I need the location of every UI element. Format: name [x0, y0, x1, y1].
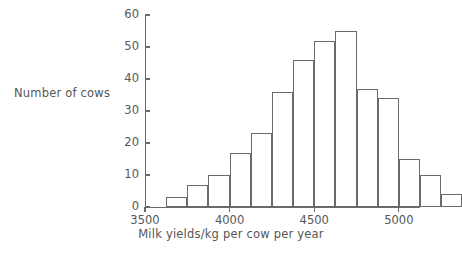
histogram-bar: [208, 175, 229, 207]
x-tick-label-5000: 5000: [369, 213, 429, 227]
x-tick-label-4500: 4500: [284, 213, 344, 227]
x-tick-label-4000: 4000: [200, 213, 260, 227]
y-tick-20: [145, 142, 150, 143]
x-axis-label-wrap: Milk yields/kg per cow per year: [0, 227, 426, 241]
x-axis-line: [145, 207, 420, 208]
histogram-bar: [314, 41, 335, 207]
histogram-bar: [230, 153, 251, 207]
histogram-bar: [166, 197, 187, 207]
histogram-bar: [357, 89, 378, 207]
x-tick-4000: [229, 207, 230, 212]
y-tick-label-30: 30: [99, 103, 139, 117]
histogram-bar: [293, 60, 314, 207]
histogram-bar: [187, 185, 208, 207]
y-tick-label-60: 60: [99, 7, 139, 21]
x-axis-label: Milk yields/kg per cow per year: [102, 227, 323, 241]
histogram-bar: [378, 98, 399, 207]
histogram-bar: [272, 92, 293, 207]
y-tick-label-50: 50: [99, 39, 139, 53]
y-tick-10: [145, 174, 150, 175]
histogram-bar: [441, 194, 462, 207]
y-tick-50: [145, 46, 150, 47]
histogram-bar: [251, 133, 272, 207]
histogram-bar: [420, 175, 441, 207]
x-tick-5000: [398, 207, 399, 212]
y-tick-30: [145, 110, 150, 111]
x-tick-3500: [144, 207, 145, 212]
histogram-bar: [399, 159, 420, 207]
y-tick-label-40: 40: [99, 71, 139, 85]
y-tick-label-0: 0: [99, 199, 139, 213]
y-tick-60: [145, 14, 150, 15]
y-tick-0: [145, 206, 150, 207]
y-tick-40: [145, 78, 150, 79]
histogram-bar: [335, 31, 356, 207]
y-tick-label-10: 10: [99, 167, 139, 181]
x-tick-4500: [314, 207, 315, 212]
x-tick-label-3500: 3500: [115, 213, 175, 227]
y-tick-label-20: 20: [99, 135, 139, 149]
